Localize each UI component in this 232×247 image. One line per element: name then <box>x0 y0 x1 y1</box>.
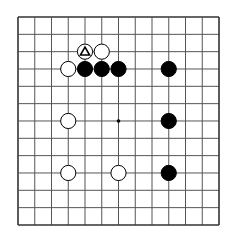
black-stone <box>77 61 92 76</box>
go-board <box>0 0 232 247</box>
star-points <box>117 119 121 123</box>
black-stone <box>161 61 176 76</box>
white-stone <box>111 165 126 180</box>
white-stone <box>61 61 76 76</box>
black-stone <box>161 113 176 128</box>
white-stone <box>61 165 76 180</box>
black-stone <box>161 165 176 180</box>
white-stone <box>77 44 92 59</box>
black-stone <box>94 61 109 76</box>
black-stone <box>111 61 126 76</box>
white-stone <box>61 113 76 128</box>
star-point <box>117 119 121 123</box>
white-stone <box>94 44 109 59</box>
